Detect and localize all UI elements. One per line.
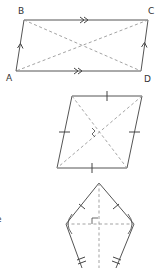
right-angle-icon xyxy=(92,218,98,224)
vertex-label-c: C xyxy=(148,6,154,16)
kite xyxy=(66,183,134,268)
vertex-label-b: B xyxy=(18,6,24,16)
diagonal-bd xyxy=(24,20,141,71)
rhombus xyxy=(57,91,142,173)
vertex-label-d: D xyxy=(144,74,151,84)
tick-mark-icon xyxy=(113,204,119,209)
kite-outline xyxy=(66,183,134,268)
vertex-label-a: A xyxy=(6,73,13,83)
parallelogram: B C A D xyxy=(6,6,154,84)
diagram-canvas: B C A D e xyxy=(0,0,158,268)
cut-off-text: e xyxy=(0,214,2,224)
